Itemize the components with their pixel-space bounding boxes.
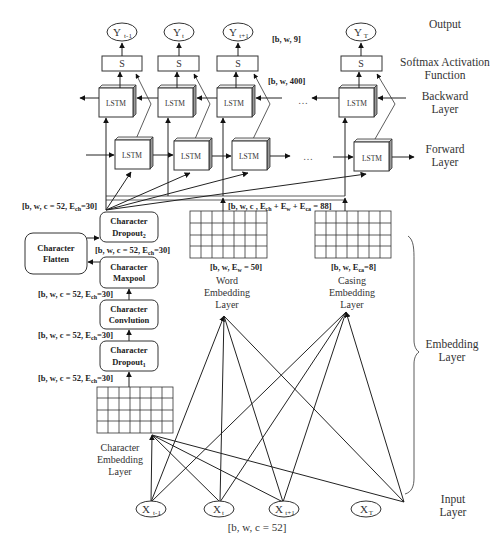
- char-maxpool-block: Character Maxpool: [100, 257, 158, 288]
- svg-text:X: X: [275, 503, 283, 515]
- word-embedding-grid: [190, 211, 267, 258]
- word-embedding-label-2: Embedding: [204, 287, 250, 298]
- label-backward-line2: Layer: [432, 103, 459, 116]
- svg-text:LSTM: LSTM: [362, 154, 382, 163]
- input-connections: [151, 312, 404, 502]
- char-dropout2-shape-label: [b, w, c = 52, Ech=30]: [22, 201, 97, 212]
- concat-shape-label: [b, w, c , Ech + Ew + Eca = 88]: [228, 201, 332, 212]
- svg-text:LSTM: LSTM: [347, 99, 367, 108]
- forward-lstm-2: LSTM: [174, 138, 212, 170]
- character-pipeline: Character Dropout2 Character Flatten [b,…: [25, 212, 170, 387]
- input-node-2: X t: [204, 501, 234, 517]
- output-shape-label: [b, w, 9]: [272, 34, 301, 44]
- word-embedding-label-3: Layer: [215, 299, 239, 310]
- forward-lstm-3: LSTM: [232, 138, 270, 170]
- input-shape-label: [b, w, c = 52]: [228, 521, 287, 533]
- softmax-row: S S S S: [102, 43, 382, 71]
- svg-text:S: S: [358, 58, 364, 69]
- casing-embedding-label-1: Casing: [338, 275, 366, 286]
- svg-text:Maxpool: Maxpool: [113, 273, 146, 283]
- svg-text:T: T: [369, 509, 374, 517]
- char-embedding-label-3: Layer: [108, 466, 132, 477]
- svg-text:LSTM: LSTM: [106, 99, 126, 108]
- svg-text:Y: Y: [354, 26, 362, 38]
- label-softmax-line1: Softmax Activation: [400, 56, 490, 68]
- character-embedding-grid: [97, 387, 173, 433]
- svg-text:S: S: [235, 58, 241, 69]
- label-input-line2: Layer: [440, 506, 467, 519]
- softmax-box-4: S: [341, 43, 382, 71]
- casing-embedding-label-2: Embedding: [329, 287, 375, 298]
- svg-text:t: t: [182, 32, 184, 40]
- svg-text:Character: Character: [110, 345, 148, 355]
- bilstm-architecture-diagram: Output Softmax Activation Function Backw…: [0, 0, 504, 551]
- backward-lstm-4: LSTM: [339, 85, 377, 117]
- svg-text:Character: Character: [110, 262, 148, 272]
- label-forward-line2: Layer: [432, 156, 459, 169]
- svg-text:T: T: [364, 32, 369, 40]
- label-embedding-line2: Layer: [439, 351, 466, 364]
- backward-lstm-1: LSTM: [99, 85, 136, 117]
- label-embedding-line1: Embedding: [425, 338, 478, 351]
- svg-text:Dropout1: Dropout1: [112, 357, 146, 368]
- svg-text:Convlution: Convlution: [109, 315, 150, 325]
- svg-text:Character: Character: [110, 304, 148, 314]
- casing-embedding-shape-label: [b, w, Eca=8]: [331, 262, 376, 273]
- char-embedding-label-1: Character: [101, 442, 141, 453]
- svg-text:LSTM: LSTM: [239, 152, 259, 161]
- svg-text:Y: Y: [229, 26, 237, 38]
- svg-text:Character: Character: [110, 216, 148, 226]
- embedding-brace: [405, 236, 419, 494]
- svg-text:S: S: [119, 58, 125, 69]
- char-flatten-block: Character Flatten: [25, 233, 87, 274]
- char-conv-shape-label: [b, w, c = 52, Ech=30]: [38, 330, 113, 341]
- label-forward-line1: Forward: [426, 143, 465, 155]
- svg-text:LSTM: LSTM: [165, 99, 185, 108]
- svg-text:Y: Y: [173, 26, 181, 38]
- output-node-2: Y t: [164, 23, 194, 41]
- svg-text:X: X: [213, 503, 221, 515]
- label-output: Output: [429, 18, 462, 31]
- output-nodes: Y t-1 Y t Y t+1 Y T: [107, 23, 376, 41]
- char-embedding-label-2: Embedding: [97, 454, 143, 465]
- svg-text:LSTM: LSTM: [181, 152, 201, 161]
- softmax-box-1: S: [102, 43, 142, 71]
- input-node-4: X T: [351, 501, 381, 517]
- forward-lstm-1: LSTM: [115, 137, 153, 169]
- svg-text:t-1: t-1: [153, 509, 161, 517]
- casing-embedding-label-3: Layer: [340, 299, 364, 310]
- backward-ellipsis: …: [298, 95, 308, 106]
- svg-text:Flatten: Flatten: [43, 254, 69, 264]
- backward-layer: LSTM LSTM LSTM LSTM …: [80, 72, 406, 117]
- char-flatten-shape-label: [b, w, c = 52, Ech=30]: [95, 245, 170, 256]
- input-node-3: X t+1: [269, 501, 299, 517]
- svg-text:X: X: [142, 503, 150, 515]
- svg-text:t+1: t+1: [239, 32, 249, 40]
- output-node-3: Y t+1: [223, 23, 253, 41]
- char-dropout1-shape-label: [b, w, c = 52, Ech=30]: [38, 373, 113, 384]
- word-embedding-shape-label: [b, w, Ew = 50]: [210, 262, 262, 273]
- char-convolution-block: Character Convlution: [100, 300, 158, 329]
- svg-text:t+1: t+1: [285, 509, 295, 517]
- svg-text:X: X: [360, 503, 368, 515]
- svg-text:Character: Character: [37, 243, 75, 253]
- char-maxpool-shape-label: [b, w, c = 52, Ech=30]: [38, 289, 113, 300]
- forward-lstm-4: LSTM: [354, 139, 392, 171]
- svg-text:Y: Y: [113, 26, 121, 38]
- svg-text:t-1: t-1: [124, 32, 132, 40]
- svg-text:S: S: [176, 58, 182, 69]
- output-node-4: Y T: [346, 23, 376, 41]
- casing-embedding-grid: [315, 211, 391, 258]
- forward-layer: LSTM LSTM LSTM LSTM …: [86, 137, 414, 171]
- input-nodes: X t-1 X t X t+1 X T: [136, 501, 381, 517]
- label-softmax-line2: Function: [425, 69, 466, 81]
- softmax-box-3: S: [217, 43, 258, 71]
- output-node-1: Y t-1: [107, 23, 137, 41]
- lstm-shape-label: [b, w, 400]: [268, 76, 305, 86]
- backward-lstm-3: LSTM: [217, 85, 255, 117]
- char-dropout1-block: Character Dropout1: [100, 341, 158, 371]
- svg-text:t: t: [222, 509, 224, 517]
- backward-lstm-2: LSTM: [158, 85, 196, 117]
- word-embedding-label-1: Word: [216, 275, 238, 286]
- svg-text:LSTM: LSTM: [122, 151, 142, 160]
